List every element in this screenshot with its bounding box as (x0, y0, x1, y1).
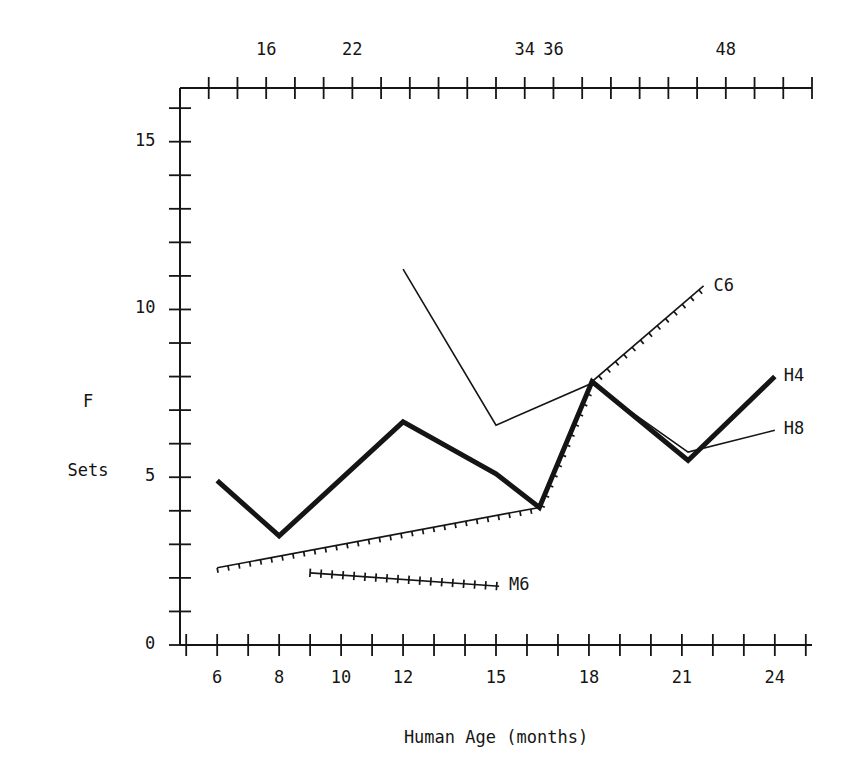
series-marker-c6 (412, 531, 413, 536)
series-marker-c6 (632, 347, 635, 351)
series-marker-m6 (387, 574, 388, 582)
series-marker-c6 (325, 548, 326, 553)
series-line-m6 (310, 573, 499, 586)
series-marker-c6 (615, 362, 618, 366)
series-marker-m6 (365, 573, 366, 581)
series-marker-c6 (640, 340, 643, 344)
x-axis-bottom-tick-label: 8 (274, 668, 284, 688)
chart-canvas (0, 0, 863, 782)
series-marker-c6 (336, 546, 337, 551)
series-label-h8: H8 (784, 419, 804, 439)
series-marker-c6 (699, 290, 702, 294)
y-axis-title-line2: Sets (48, 459, 128, 482)
y-axis-tick-label: 0 (145, 634, 155, 654)
series-marker-c6 (379, 537, 380, 542)
series-marker-c6 (531, 509, 532, 514)
x-axis-bottom-tick-label: 12 (393, 668, 413, 688)
series-marker-c6 (666, 319, 669, 323)
series-marker-c6 (401, 533, 402, 538)
series-marker-m6 (496, 582, 497, 590)
series-marker-c6 (250, 562, 251, 567)
series-label-m6: M6 (509, 575, 529, 595)
series-marker-c6 (314, 550, 315, 555)
series-label-h4: H4 (784, 366, 804, 386)
series-marker-c6 (455, 523, 456, 528)
y-axis-title-line1: F (48, 390, 128, 413)
series-layer (217, 269, 775, 590)
x-axis-title: Human Age (months) (404, 728, 588, 748)
x-axis-top-tick-label: 16 (256, 40, 276, 60)
series-marker-c6 (358, 541, 359, 546)
series-marker-m6 (431, 577, 432, 585)
series-marker-c6 (657, 326, 660, 330)
series-marker-c6 (423, 529, 424, 534)
series-marker-c6 (498, 515, 499, 520)
series-marker-c6 (282, 556, 283, 561)
series-marker-m6 (343, 571, 344, 579)
x-axis-bottom-tick-label: 18 (579, 668, 599, 688)
series-marker-m6 (398, 575, 399, 583)
x-axis-bottom-tick-label: 24 (765, 668, 785, 688)
series-marker-c6 (624, 354, 627, 358)
axis-layer (169, 77, 812, 656)
series-marker-m6 (463, 580, 464, 588)
series-marker-c6 (674, 311, 677, 315)
series-marker-c6 (217, 568, 218, 573)
x-axis-bottom-tick-label: 10 (331, 668, 351, 688)
series-marker-c6 (444, 525, 445, 530)
x-axis-top-tick-label: 34 (514, 40, 534, 60)
x-axis-bottom-tick-label: 21 (672, 668, 692, 688)
chart-figure: 051015 68101215182124 1622343648 F Sets … (0, 0, 863, 782)
series-marker-c6 (599, 376, 602, 380)
x-axis-bottom-tick-label: 6 (212, 668, 222, 688)
x-axis-top-tick-label: 48 (716, 40, 736, 60)
series-marker-c6 (487, 517, 488, 522)
series-marker-c6 (509, 513, 510, 518)
series-marker-m6 (420, 576, 421, 584)
y-axis-tick-label: 5 (145, 466, 155, 486)
series-marker-m6 (452, 579, 453, 587)
x-axis-top-tick-label: 22 (342, 40, 362, 60)
y-axis-title: F Sets (48, 344, 128, 528)
y-axis-tick-label: 15 (135, 131, 155, 151)
series-marker-m6 (354, 572, 355, 580)
series-marker-c6 (520, 511, 521, 516)
series-marker-c6 (477, 519, 478, 524)
series-line-h8 (403, 269, 775, 452)
series-marker-c6 (228, 566, 229, 571)
series-marker-m6 (376, 573, 377, 581)
series-marker-c6 (271, 558, 272, 563)
series-marker-m6 (441, 578, 442, 586)
series-marker-c6 (293, 554, 294, 559)
series-marker-m6 (332, 570, 333, 578)
series-marker-m6 (321, 569, 322, 577)
series-marker-m6 (474, 580, 475, 588)
series-marker-c6 (347, 544, 348, 549)
series-marker-c6 (369, 539, 370, 544)
series-marker-m6 (409, 576, 410, 584)
series-line-h4 (217, 377, 775, 536)
series-marker-c6 (260, 560, 261, 565)
series-marker-c6 (466, 521, 467, 526)
series-marker-c6 (691, 297, 694, 301)
series-marker-c6 (304, 552, 305, 557)
series-marker-c6 (682, 304, 685, 308)
series-label-c6: C6 (714, 276, 734, 296)
series-marker-c6 (649, 333, 652, 337)
series-marker-m6 (485, 581, 486, 589)
series-marker-c6 (607, 369, 610, 373)
series-marker-c6 (390, 535, 391, 540)
x-axis-top-tick-label: 36 (543, 40, 563, 60)
series-marker-c6 (239, 564, 240, 569)
series-marker-m6 (310, 569, 311, 577)
series-marker-c6 (433, 527, 434, 532)
y-axis-tick-label: 10 (135, 298, 155, 318)
x-axis-bottom-tick-label: 15 (486, 668, 506, 688)
